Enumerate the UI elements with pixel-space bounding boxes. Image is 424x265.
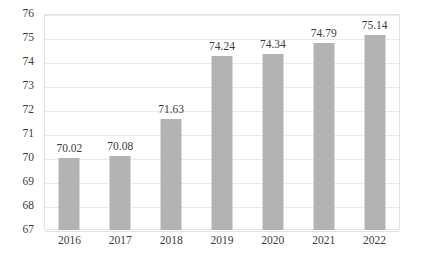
- bar-group: 74.24: [197, 14, 248, 230]
- x-axis-tick-label: 2021: [312, 235, 335, 247]
- bar-value-label: 74.79: [311, 28, 337, 40]
- bar[interactable]: [110, 156, 131, 230]
- bar[interactable]: [211, 56, 232, 230]
- y-axis-tick-label: 68: [23, 200, 35, 212]
- y-axis-tick-label: 72: [23, 104, 35, 116]
- x-axis-tick-label: 2019: [211, 235, 234, 247]
- bars-layer: 70.0270.0871.6374.2474.3474.7975.14: [44, 14, 400, 230]
- bar-group: 74.34: [247, 14, 298, 230]
- x-axis: 2016201720182019202020212022: [44, 232, 400, 254]
- y-axis-tick-label: 70: [23, 152, 35, 164]
- bar-group: 70.08: [95, 14, 146, 230]
- y-axis: 67686970717273747576: [0, 14, 40, 230]
- y-axis-tick-label: 76: [23, 8, 35, 20]
- bar-chart: 67686970717273747576 70.0270.0871.6374.2…: [0, 0, 424, 265]
- bar-group: 75.14: [349, 14, 400, 230]
- x-axis-tick-label: 2020: [261, 235, 284, 247]
- y-axis-tick-label: 75: [23, 32, 35, 44]
- bar-value-label: 71.63: [158, 104, 184, 116]
- bar-value-label: 70.08: [107, 141, 133, 153]
- bar-value-label: 70.02: [56, 143, 82, 155]
- bar-group: 70.02: [44, 14, 95, 230]
- x-axis-tick-label: 2017: [109, 235, 132, 247]
- y-axis-tick-label: 71: [23, 128, 35, 140]
- bar-group: 74.79: [298, 14, 349, 230]
- bar[interactable]: [364, 35, 385, 230]
- x-axis-tick-label: 2016: [58, 235, 81, 247]
- x-axis-tick-label: 2018: [160, 235, 183, 247]
- x-axis-tick-label: 2022: [363, 235, 386, 247]
- bar-value-label: 74.24: [209, 41, 235, 53]
- bar-value-label: 74.34: [260, 39, 286, 51]
- y-axis-tick-label: 73: [23, 80, 35, 92]
- bar-group: 71.63: [146, 14, 197, 230]
- bar-value-label: 75.14: [362, 20, 388, 32]
- bar[interactable]: [313, 43, 334, 230]
- y-axis-tick-label: 74: [23, 56, 35, 68]
- bar[interactable]: [161, 119, 182, 230]
- y-axis-tick-label: 69: [23, 176, 35, 188]
- bar[interactable]: [59, 158, 80, 230]
- y-axis-tick-label: 67: [23, 224, 35, 236]
- bar[interactable]: [262, 54, 283, 230]
